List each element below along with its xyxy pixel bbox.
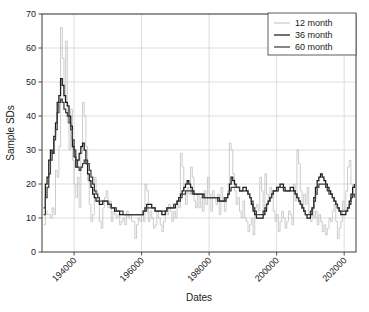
y-tick-label: 40 xyxy=(26,111,36,121)
legend-label-12-month: 12 month xyxy=(295,18,333,28)
legend-label-60-month: 60 month xyxy=(295,42,333,52)
chart-legend: 12 month36 month60 month xyxy=(268,13,356,55)
y-tick-label: 10 xyxy=(26,213,36,223)
sample-sds-line-chart: 010203040506070 194000196000198000200000… xyxy=(0,0,369,312)
y-tick-label: 30 xyxy=(26,145,36,155)
y-tick-label: 20 xyxy=(26,179,36,189)
x-axis-title: Dates xyxy=(186,292,212,303)
chart-container: 010203040506070 194000196000198000200000… xyxy=(0,0,369,312)
legend-label-36-month: 36 month xyxy=(295,30,333,40)
y-tick-label: 70 xyxy=(26,9,36,19)
y-tick-label: 60 xyxy=(26,43,36,53)
y-tick-label: 50 xyxy=(26,77,36,87)
y-axis-title: Sample SDs xyxy=(5,105,16,161)
y-tick-label: 0 xyxy=(31,247,36,257)
